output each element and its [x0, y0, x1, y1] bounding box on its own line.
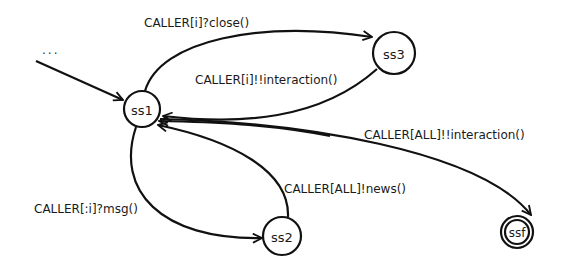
edge-label-interaction: CALLER[i]!!interaction(): [195, 73, 337, 87]
edge-entry-to-ss1: [36, 61, 123, 100]
edge-ss1-to-ss2: [131, 127, 262, 238]
node-label-ss3: ss3: [383, 47, 405, 62]
edge-ss2-to-ss1: [158, 125, 288, 217]
node-ssf: ssf: [501, 216, 533, 248]
edge-label-close: CALLER[i]?close(): [144, 16, 249, 30]
entry-ellipsis: ...: [42, 43, 59, 57]
node-label-ssf: ssf: [509, 226, 527, 240]
edge-label-all-interaction: CALLER[ALL]!!interaction(): [364, 128, 525, 142]
node-ss2: ss2: [263, 217, 301, 255]
edge-label-msg: CALLER[:i]?msg(): [34, 202, 138, 216]
node-label-ss2: ss2: [271, 230, 293, 245]
state-diagram: ... CALLER[i]?close() CALLER[i]!!interac…: [0, 0, 568, 272]
node-ss1: ss1: [124, 91, 160, 127]
node-ss3: ss3: [373, 32, 415, 74]
edge-label-news: CALLER[ALL]!news(): [284, 182, 406, 196]
node-label-ss1: ss1: [131, 103, 153, 118]
